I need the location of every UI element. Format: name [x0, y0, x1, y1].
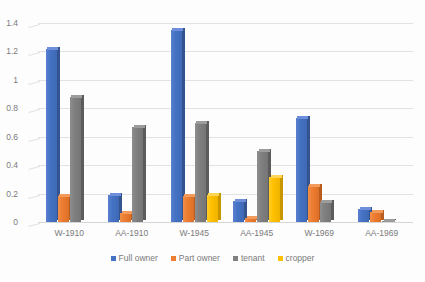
bar-cap — [297, 116, 308, 119]
bar-face — [370, 212, 381, 222]
y-axis-tick-label: 0 — [0, 217, 18, 227]
bar — [46, 49, 57, 222]
bar-cap — [71, 95, 82, 98]
y-axis-tick-label: 1.2 — [0, 46, 18, 56]
bar-cap — [372, 210, 383, 213]
bar-group — [163, 23, 226, 222]
bar-cap — [59, 194, 70, 197]
bar-side — [143, 125, 146, 220]
bar-side — [182, 28, 185, 220]
bar-face — [257, 151, 268, 222]
axis-depth-tick — [28, 223, 40, 227]
legend-label: Full owner — [119, 253, 158, 263]
bar — [207, 195, 218, 222]
bar — [370, 212, 381, 222]
bar-side — [280, 175, 283, 220]
bar-group — [38, 23, 101, 222]
bar — [132, 127, 143, 222]
bar — [183, 196, 194, 222]
legend-swatch-icon — [233, 256, 238, 261]
legend-label: cropper — [286, 253, 315, 263]
bar — [70, 97, 81, 222]
x-axis-tick-label: W-1969 — [288, 228, 351, 238]
bar-cap — [122, 211, 133, 214]
legend-item[interactable]: Full owner — [111, 253, 158, 263]
bar-group — [351, 23, 414, 222]
bar-face — [320, 202, 331, 222]
legend-swatch-icon — [278, 256, 283, 261]
bar-face — [296, 118, 307, 222]
x-axis-tick-labels: W-1910AA-1910W-1945AA-1945W-1969AA-1969 — [38, 228, 413, 238]
bar — [296, 118, 307, 222]
bar-face — [120, 213, 131, 222]
bar-cap — [196, 121, 207, 124]
bar-groups — [38, 23, 413, 222]
bar — [233, 201, 244, 222]
bar — [108, 195, 119, 222]
bar-face — [171, 30, 182, 222]
chart-container: 00.20.40.60.811.21.4 W-1910AA-1910W-1945… — [0, 0, 425, 282]
bar-face — [132, 127, 143, 222]
y-axis-tick-label: 0.6 — [0, 132, 18, 142]
bar-cap — [134, 125, 145, 128]
y-axis-tick-label: 0.2 — [0, 189, 18, 199]
bar-group — [226, 23, 289, 222]
bar-group — [101, 23, 164, 222]
bar-face — [58, 196, 69, 222]
bar-cap — [309, 184, 320, 187]
bar-cap — [247, 216, 258, 219]
bar-face — [358, 209, 369, 222]
x-axis-tick-label: AA-1945 — [226, 228, 289, 238]
bar-face — [195, 123, 206, 223]
bar — [171, 30, 182, 222]
bar-cap — [184, 194, 195, 197]
bar — [195, 123, 206, 223]
bar-face — [108, 195, 119, 222]
bar-face — [46, 49, 57, 222]
legend-label: tenant — [241, 253, 265, 263]
bar-face — [183, 196, 194, 222]
legend-item[interactable]: cropper — [278, 253, 315, 263]
bar — [269, 177, 280, 222]
bar — [308, 186, 319, 222]
legend-swatch-icon — [171, 256, 176, 261]
bar-side — [81, 95, 84, 220]
bar-cap — [110, 193, 121, 196]
legend-item[interactable]: tenant — [233, 253, 265, 263]
chart-legend: Full ownerPart ownertenantcropper — [0, 253, 425, 263]
bar-side — [218, 193, 221, 220]
bar — [120, 213, 131, 222]
x-axis-tick-label: AA-1969 — [351, 228, 414, 238]
bar-cap — [235, 199, 246, 202]
y-axis-tick-label: 1 — [0, 75, 18, 85]
bar-cap — [259, 149, 270, 152]
bar-cap — [208, 193, 219, 196]
y-axis-tick-label: 0.8 — [0, 103, 18, 113]
x-axis-tick-label: W-1945 — [163, 228, 226, 238]
bar-face — [308, 186, 319, 222]
bar-cap — [321, 200, 332, 203]
x-axis-tick-label: W-1910 — [38, 228, 101, 238]
legend-label: Part owner — [179, 253, 220, 263]
bar-face — [233, 201, 244, 222]
bar-face — [269, 177, 280, 222]
bar-group — [288, 23, 351, 222]
y-axis-tick-label: 0.4 — [0, 160, 18, 170]
plot-area: 00.20.40.60.811.21.4 — [38, 23, 413, 222]
legend-item[interactable]: Part owner — [171, 253, 220, 263]
bar-cap — [47, 47, 58, 50]
bar — [257, 151, 268, 222]
bar-cap — [360, 207, 371, 210]
bar — [358, 209, 369, 222]
bar-cap — [172, 28, 183, 31]
bar-face — [70, 97, 81, 222]
x-axis-line — [38, 222, 413, 223]
bar-cap — [271, 175, 282, 178]
bar — [58, 196, 69, 222]
y-axis-tick-label: 1.4 — [0, 18, 18, 28]
x-axis-tick-label: AA-1910 — [101, 228, 164, 238]
legend-swatch-icon — [111, 256, 116, 261]
bar — [320, 202, 331, 222]
bar-face — [207, 195, 218, 222]
